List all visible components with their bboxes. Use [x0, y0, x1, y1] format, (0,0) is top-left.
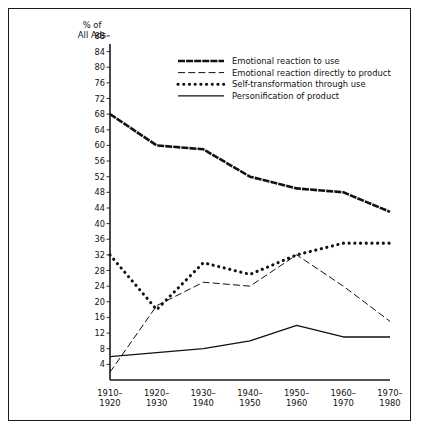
y-tick-label: 68: [95, 109, 105, 119]
x-tick-label: 1960: [286, 398, 307, 408]
y-tick-label: 28: [95, 266, 105, 276]
y-tick-label: 76: [95, 78, 105, 88]
chart-figure: % of All Ads 481216202428323640444852566…: [0, 0, 421, 431]
series-line: [110, 243, 390, 309]
y-tick-label: 64: [95, 125, 105, 135]
y-tick-label: 8: [100, 344, 105, 354]
y-tick-label: 52: [95, 172, 105, 182]
x-axis-tick-labels: 1910–19201920–19301930–19401940–19501950…: [97, 388, 403, 408]
y-tick-label: 72: [95, 94, 105, 104]
y-tick-label: 56: [95, 156, 105, 166]
x-tick-label: 1980: [379, 398, 400, 408]
x-tick-label: 1970–: [377, 388, 403, 398]
x-tick-label: 1920–: [144, 388, 170, 398]
series-line: [110, 255, 390, 372]
y-tick-label: 20: [95, 297, 105, 307]
y-tick-label: 12: [95, 328, 105, 338]
y-tick-label: 88: [95, 31, 105, 41]
x-tick-label: 1940: [193, 398, 214, 408]
y-tick-label: 80: [95, 62, 105, 72]
y-axis-tick-labels: 4812162024283236404448525660646872768084…: [95, 31, 110, 370]
y-tick-label: 60: [95, 140, 105, 150]
legend-label: Personification of product: [232, 91, 340, 101]
x-tick-label: 1910–: [97, 388, 123, 398]
x-tick-label: 1970: [333, 398, 354, 408]
x-tick-label: 1920: [99, 398, 120, 408]
x-tick-label: 1940–: [237, 388, 263, 398]
y-tick-label: 48: [95, 187, 105, 197]
legend-label: Self-transformation through use: [232, 79, 366, 89]
x-tick-label: 1930–: [191, 388, 217, 398]
data-series-group: [110, 114, 390, 372]
x-tick-label: 1950: [239, 398, 260, 408]
chart-legend: Emotional reaction to useEmotional react…: [178, 56, 391, 101]
y-tick-label: 40: [95, 219, 105, 229]
y-tick-label: 84: [95, 47, 105, 57]
legend-label: Emotional reaction to use: [232, 56, 339, 66]
y-tick-label: 44: [95, 203, 105, 213]
legend-label: Emotional reaction directly to product: [232, 68, 391, 78]
y-tick-label: 32: [95, 250, 105, 260]
line-chart-svg: % of All Ads 481216202428323640444852566…: [0, 0, 421, 431]
series-line: [110, 325, 390, 356]
y-axis-title-line1: % of: [83, 20, 103, 30]
y-tick-label: 4: [100, 359, 105, 369]
y-tick-label: 24: [95, 281, 105, 291]
y-tick-label: 36: [95, 234, 105, 244]
x-tick-label: 1960–: [331, 388, 357, 398]
x-tick-label: 1950–: [284, 388, 310, 398]
y-tick-label: 16: [95, 312, 105, 322]
series-line: [110, 114, 390, 212]
x-tick-label: 1930: [146, 398, 167, 408]
